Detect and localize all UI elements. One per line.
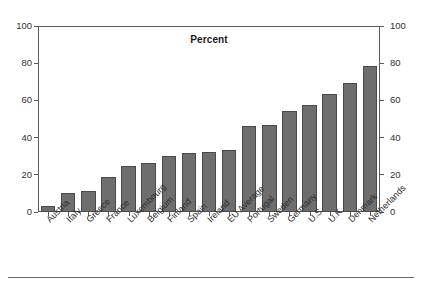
bar	[363, 66, 377, 212]
y-tick-mark-right	[380, 100, 384, 101]
chart-figure: Percent 020406080100 020406080100 Austri…	[0, 0, 422, 286]
y-tick-label-left: 0	[2, 207, 32, 217]
bar-series	[38, 26, 380, 212]
bar	[322, 94, 336, 212]
y-tick-mark-right	[380, 26, 384, 27]
y-tick-label-left: 100	[2, 21, 32, 31]
y-tick-label-left: 40	[2, 133, 32, 143]
bottom-divider	[8, 277, 414, 278]
y-tick-label-left: 80	[2, 58, 32, 68]
y-tick-label-right: 20	[390, 170, 420, 180]
y-tick-label-left: 20	[2, 170, 32, 180]
y-tick-label-right: 80	[390, 58, 420, 68]
y-tick-label-right: 40	[390, 133, 420, 143]
y-tick-mark-right	[380, 174, 384, 175]
y-tick-label-right: 60	[390, 95, 420, 105]
y-tick-label-left: 60	[2, 95, 32, 105]
y-tick-mark-right	[380, 63, 384, 64]
y-tick-mark-right	[380, 137, 384, 138]
y-tick-label-right: 0	[390, 207, 420, 217]
bar	[343, 83, 357, 212]
y-tick-label-right: 100	[390, 21, 420, 31]
